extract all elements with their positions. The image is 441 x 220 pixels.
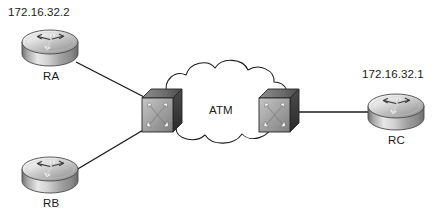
router-icon-rc[interactable] [368,94,424,130]
link-rb-sw1 [76,126,150,170]
router-icon-ra[interactable] [22,30,78,66]
node-label-ra: RA [43,70,59,82]
atm-switch-icon-left[interactable] [142,89,182,132]
node-label-rc: RC [388,134,405,146]
cloud-label-atm: ATM [209,104,233,116]
node-label-rb: RB [43,197,59,209]
ip-label-ra: 172.16.32.2 [8,6,70,18]
ip-label-rc: 172.16.32.1 [362,68,424,80]
link-ra-sw1 [76,62,150,100]
atm-switch-icon-right[interactable] [259,89,299,132]
router-icon-rb[interactable] [22,157,78,193]
